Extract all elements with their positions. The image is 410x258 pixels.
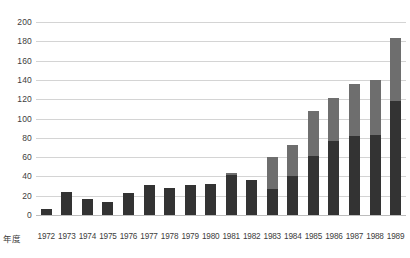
- x-axis-tick-label: 1982: [241, 232, 262, 241]
- x-axis-tick-label: 1981: [221, 232, 242, 241]
- plot-area: [36, 22, 406, 215]
- bar[interactable]: [180, 22, 201, 215]
- bar-segment-lower: [287, 176, 298, 215]
- x-axis-tick-label: 1985: [303, 232, 324, 241]
- x-axis-tick-label: 1977: [139, 232, 160, 241]
- bar-segment-upper: [328, 98, 339, 140]
- x-axis-tick-label: 1973: [57, 232, 78, 241]
- bar-segment-lower: [82, 199, 93, 215]
- y-axis-tick-labels: 200180160140120100806040200: [0, 0, 32, 258]
- x-axis-tick-label: 1978: [159, 232, 180, 241]
- bar[interactable]: [77, 22, 98, 215]
- bar-chart: 200180160140120100806040200 年度 197219731…: [0, 0, 410, 258]
- bar-segment-upper: [287, 145, 298, 177]
- bar-segment-upper: [308, 111, 319, 156]
- bar-segment-lower: [390, 101, 401, 215]
- bar-segment-lower: [267, 189, 278, 215]
- bar-segment-upper: [267, 157, 278, 189]
- bar-segment-lower: [308, 156, 319, 215]
- y-axis-tick-label: 140: [0, 75, 32, 85]
- y-axis-tick-label: 0: [0, 210, 32, 220]
- x-axis-tick-label: 1983: [262, 232, 283, 241]
- bar[interactable]: [200, 22, 221, 215]
- x-axis-tick-label: 1984: [283, 232, 304, 241]
- bar[interactable]: [303, 22, 324, 215]
- bar-segment-lower: [370, 135, 381, 215]
- bar-segment-lower: [328, 141, 339, 215]
- bar-segment-lower: [144, 185, 155, 215]
- bar-segment-lower: [185, 185, 196, 215]
- x-axis-tick-label: 1989: [385, 232, 406, 241]
- x-axis-tick-label: 1988: [365, 232, 386, 241]
- x-axis-line: [36, 215, 406, 216]
- bar-segment-lower: [349, 136, 360, 215]
- y-axis-tick-label: 200: [0, 17, 32, 27]
- bar[interactable]: [98, 22, 119, 215]
- y-axis-tick-label: 40: [0, 171, 32, 181]
- x-axis-tick-label: 1980: [200, 232, 221, 241]
- x-axis-tick-label: 1979: [180, 232, 201, 241]
- bar-segment-lower: [123, 193, 134, 215]
- bar[interactable]: [385, 22, 406, 215]
- bar-segment-lower: [61, 192, 72, 215]
- bar[interactable]: [57, 22, 78, 215]
- bar[interactable]: [139, 22, 160, 215]
- bar-segment-upper: [370, 80, 381, 135]
- y-axis-tick-label: 20: [0, 191, 32, 201]
- bar[interactable]: [324, 22, 345, 215]
- y-axis-tick-label: 100: [0, 114, 32, 124]
- bar[interactable]: [159, 22, 180, 215]
- bar[interactable]: [118, 22, 139, 215]
- bar-segment-lower: [205, 184, 216, 215]
- y-axis-tick-label: 120: [0, 94, 32, 104]
- bar[interactable]: [283, 22, 304, 215]
- x-axis-tick-label: 1976: [118, 232, 139, 241]
- y-axis-tick-label: 180: [0, 36, 32, 46]
- bar[interactable]: [365, 22, 386, 215]
- bar-segment-lower: [226, 175, 237, 215]
- bar[interactable]: [36, 22, 57, 215]
- bar-segment-upper: [390, 38, 401, 101]
- x-axis-tick-label: 1987: [344, 232, 365, 241]
- bar-segment-upper: [349, 84, 360, 136]
- y-axis-tick-label: 80: [0, 133, 32, 143]
- bar[interactable]: [344, 22, 365, 215]
- y-axis-tick-label: 60: [0, 152, 32, 162]
- bar[interactable]: [221, 22, 242, 215]
- bar-segment-lower: [246, 180, 257, 215]
- x-axis-tick-label: 1986: [324, 232, 345, 241]
- bar-segment-lower: [164, 188, 175, 215]
- x-axis-title: 年度: [3, 232, 21, 244]
- x-axis-tick-labels: 1972197319741975197619771978197919801981…: [36, 232, 406, 246]
- x-axis-tick-label: 1974: [77, 232, 98, 241]
- bar-series-group: [36, 22, 406, 215]
- x-axis-tick-label: 1972: [36, 232, 57, 241]
- y-axis-tick-label: 160: [0, 56, 32, 66]
- bar-segment-lower: [102, 202, 113, 216]
- bar[interactable]: [262, 22, 283, 215]
- x-axis-tick-label: 1975: [98, 232, 119, 241]
- bar[interactable]: [241, 22, 262, 215]
- bar-segment-lower: [41, 209, 52, 215]
